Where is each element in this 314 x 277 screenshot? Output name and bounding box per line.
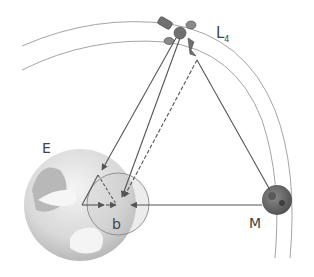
- label-barycenter: b: [112, 216, 121, 232]
- lagrange-diagram: L4 E M b: [0, 0, 314, 277]
- label-earth: E: [42, 140, 51, 156]
- label-l4: L4: [216, 24, 229, 44]
- moon: [262, 185, 292, 215]
- satellite-icon: [157, 16, 196, 56]
- label-moon: M: [249, 215, 261, 231]
